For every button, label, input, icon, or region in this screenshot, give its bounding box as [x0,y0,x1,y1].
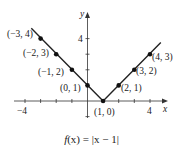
label-neg3-4: (−3, 4) [7,29,33,40]
x-tick-label-4: 4 [147,106,152,116]
caption-expression: (x) = |x − 1| [67,133,119,145]
point-neg3-4 [38,36,43,41]
point-1-0 [101,99,106,104]
x-axis-arrow-icon [162,99,168,104]
function-caption: f(x) = |x − 1| [0,133,183,145]
y-axis-label: y [79,9,85,19]
label-2-1: (2, 1) [121,83,142,94]
label-neg2-3: (−2, 3) [23,48,49,59]
point-neg1-2 [70,68,75,73]
x-axis-label: x [162,104,168,114]
label-0-1: (0, 1) [60,83,81,94]
point-neg2-3 [54,52,59,57]
label-neg1-2: (−1, 2) [38,67,64,78]
label-3-2: (3, 2) [136,66,157,77]
point-0-1 [85,83,90,88]
x-tick-label-neg4: −4 [17,106,27,116]
y-axis-arrow-icon [85,12,90,18]
absolute-value-graph: (−3, 4) (−2, 3) (−1, 2) (0, 1) (1, 0) (2… [0,0,183,152]
label-4-3: (4, 3) [152,52,173,63]
y-tick-label-4: 4 [78,34,83,44]
label-1-0: (1, 0) [94,107,115,118]
